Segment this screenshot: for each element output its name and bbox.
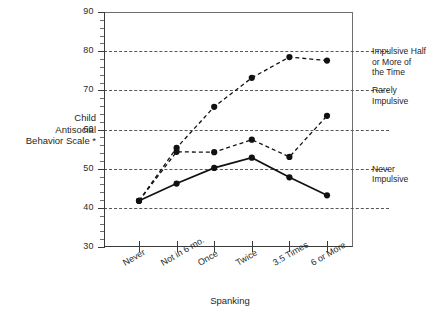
x-axis-title: Spanking [160,295,300,306]
y-tick-label-50: 50 [68,163,94,173]
y-tick-label-90: 90 [68,6,94,16]
gridline-40 [104,208,389,209]
y-minor-tick-52 [100,161,104,162]
gridline-70 [104,90,389,91]
y-minor-tick-86 [100,28,104,29]
y-axis-title-line-3: Behavior Scale * [0,135,96,147]
y-minor-tick-36 [100,224,104,225]
right-annotation-0-line-3: the Time [372,67,436,78]
x-tick-label-0: Never [121,247,147,268]
y-axis-title: ChildAntisocialBehavior Scale * [0,112,96,147]
y-minor-tick-78 [100,59,104,60]
gridline-50 [104,169,389,170]
y-minor-tick-76 [100,67,104,68]
right-annotation-2-line-1: Never [372,164,436,175]
y-minor-tick-46 [100,184,104,185]
y-minor-tick-66 [100,106,104,107]
y-tick-label-40: 40 [68,202,94,212]
y-minor-tick-58 [100,137,104,138]
y-minor-tick-32 [100,239,104,240]
y-minor-tick-74 [100,75,104,76]
y-minor-tick-42 [100,200,104,201]
right-annotation-1: RarelyImpulsive [372,85,436,106]
y-minor-tick-84 [100,36,104,37]
x-tick-label-2: Once [196,248,220,267]
y-minor-tick-48 [100,177,104,178]
right-annotation-0-line-1: Impulsive Half [372,46,436,57]
y-minor-tick-56 [100,145,104,146]
y-tick-60 [98,130,105,131]
gridline-80 [104,51,389,52]
y-minor-tick-54 [100,153,104,154]
y-axis-title-line-1: Child [0,112,96,124]
y-minor-tick-72 [100,83,104,84]
y-minor-tick-88 [100,20,104,21]
y-minor-tick-68 [100,98,104,99]
chart-figure: 30405060708090 NeverNot in 6 mo.OnceTwic… [0,0,437,320]
y-tick-70 [98,90,105,91]
y-tick-50 [98,169,105,170]
y-axis-title-line-2: Antisocial [0,124,96,136]
y-minor-tick-82 [100,43,104,44]
y-tick-label-30: 30 [68,241,94,251]
y-minor-tick-44 [100,192,104,193]
y-tick-label-80: 80 [68,45,94,55]
y-tick-80 [98,51,105,52]
y-tick-90 [98,12,105,13]
right-annotation-2: NeverImpulsive [372,164,436,185]
y-minor-tick-62 [100,122,104,123]
right-annotation-1-line-1: Rarely [372,85,436,96]
right-annotation-0-line-2: or More of [372,57,436,68]
y-tick-label-70: 70 [68,84,94,94]
y-minor-tick-34 [100,231,104,232]
right-annotation-0: Impulsive Halfor More ofthe Time [372,46,436,78]
right-annotation-1-line-2: Impulsive [372,96,436,107]
right-annotation-2-line-2: Impulsive [372,174,436,185]
y-minor-tick-38 [100,216,104,217]
gridline-60 [104,130,389,131]
y-tick-30 [98,247,105,248]
y-tick-40 [98,208,105,209]
x-tick-label-3: Twice [234,247,259,267]
y-minor-tick-64 [100,114,104,115]
